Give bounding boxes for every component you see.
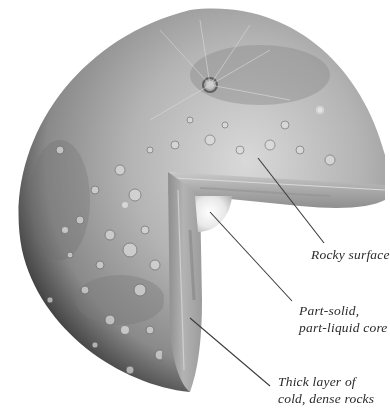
- core: [195, 196, 232, 232]
- label-rocky-surface: Rocky surface: [311, 246, 390, 263]
- label-line: Rocky surface: [311, 246, 390, 263]
- label-line: Thick layer of: [278, 373, 374, 390]
- label-line: part-liquid core: [299, 319, 388, 336]
- leader-line-core: [210, 212, 292, 301]
- label-line: Part-solid,: [299, 302, 388, 319]
- label-core: Part-solid, part-liquid core: [299, 302, 388, 336]
- leader-line-mantle: [190, 318, 270, 386]
- label-mantle: Thick layer of cold, dense rocks: [278, 373, 374, 407]
- label-line: cold, dense rocks: [278, 390, 374, 407]
